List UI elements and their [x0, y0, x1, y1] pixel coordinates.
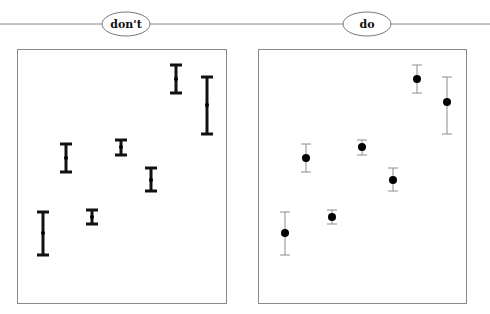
- data-point-marker: [413, 75, 421, 83]
- do-label: do: [359, 18, 374, 31]
- data-point-marker: [41, 231, 45, 235]
- data-point-marker: [119, 145, 123, 149]
- data-point-marker: [149, 178, 153, 182]
- data-point-marker: [328, 213, 336, 221]
- do-plot-frame: [259, 50, 467, 304]
- data-point-marker: [174, 77, 178, 81]
- do-panel: do: [245, 0, 490, 314]
- dont-plot-frame: [18, 50, 227, 304]
- data-point-marker: [389, 176, 397, 184]
- data-point-marker: [64, 156, 68, 160]
- dont-panel: don't: [0, 0, 245, 314]
- do-figure: do: [245, 0, 490, 314]
- data-point-marker: [358, 143, 366, 151]
- data-point-marker: [205, 103, 209, 107]
- dont-figure: don't: [0, 0, 245, 314]
- data-point-marker: [443, 98, 451, 106]
- data-point-marker: [302, 154, 310, 162]
- data-point-marker: [281, 229, 289, 237]
- dont-label: don't: [110, 18, 142, 31]
- data-point-marker: [90, 215, 94, 219]
